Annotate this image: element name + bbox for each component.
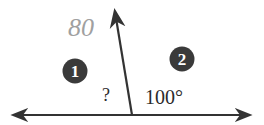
badge-1: 1 [63, 59, 88, 84]
handwritten-note: 80 [68, 13, 94, 42]
badge-2-label: 2 [178, 50, 187, 69]
angle-diagram: 80 1 2 ? 100° [0, 0, 264, 125]
handwritten-80: 80 [68, 13, 94, 42]
badge-2: 2 [170, 47, 195, 72]
badge-1-label: 1 [71, 62, 80, 81]
diagram-canvas: 80 1 2 ? 100° [0, 0, 264, 125]
right-angle-label: 100° [145, 86, 183, 108]
ray [115, 12, 132, 115]
left-angle-label: ? [102, 85, 110, 105]
